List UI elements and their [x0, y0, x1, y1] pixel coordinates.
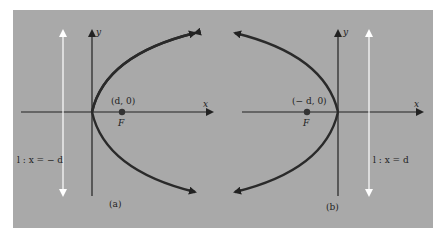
focus-label: F	[302, 118, 310, 128]
x-axis-label: x	[203, 99, 208, 109]
x-axis-label: x	[414, 99, 419, 109]
panel-b: y x (− d, 0) F l : x = d (b)	[235, 27, 422, 212]
parabola-figure: y x (d, 0) F l : x = − d (a) y x (− d, 0…	[0, 0, 445, 239]
caption-b: (b)	[326, 202, 339, 212]
directrix-label: l : x = d	[373, 155, 409, 165]
focus-point	[304, 109, 310, 115]
parabola-curve	[92, 33, 195, 112]
focus-point	[119, 109, 125, 115]
caption-a: (a)	[109, 199, 121, 209]
y-axis-label: y	[342, 27, 349, 37]
y-axis-label: y	[95, 27, 102, 37]
focus-label: F	[117, 118, 125, 128]
focus-coordinate-label: (− d, 0)	[292, 96, 327, 106]
focus-coordinate-label: (d, 0)	[111, 96, 135, 106]
panel-a: y x (d, 0) F l : x = − d (a)	[17, 27, 212, 209]
directrix-label: l : x = − d	[17, 155, 63, 165]
